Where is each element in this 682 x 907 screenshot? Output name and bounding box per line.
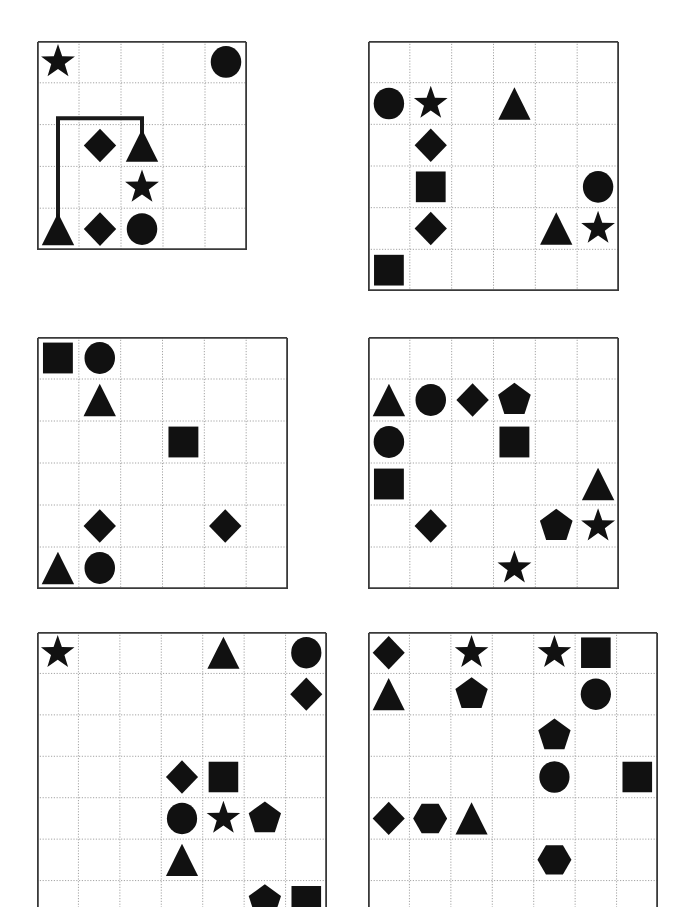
grid-cell-r0-c5 xyxy=(581,637,611,668)
square-shape xyxy=(374,469,404,500)
grid-cell-r5-c0 xyxy=(374,255,404,286)
grid-cell-r3-c6 xyxy=(622,762,652,793)
square-shape xyxy=(291,886,321,907)
square-shape xyxy=(416,171,446,202)
panel-1 xyxy=(37,41,247,250)
circle-shape xyxy=(127,213,157,245)
grid-cell-r0-c0 xyxy=(43,343,73,374)
grid-cell-r1-c1 xyxy=(415,384,446,416)
grid-cell-r4-c3 xyxy=(167,803,197,834)
circle-shape xyxy=(167,803,197,834)
grid-cell-r5-c1 xyxy=(84,552,115,584)
grid-cell-r3-c0 xyxy=(374,469,404,500)
panel-6-canvas xyxy=(368,632,658,907)
grid-cell-r1-c0 xyxy=(374,88,404,120)
panel-4 xyxy=(368,337,619,589)
panel-1-canvas xyxy=(37,41,247,250)
grid-cell-r6-c6 xyxy=(291,886,321,907)
panel-5 xyxy=(37,632,327,907)
worksheet-sheet xyxy=(0,0,682,907)
grid-cell-r0-c1 xyxy=(84,342,115,374)
grid-cell-r2-c3 xyxy=(168,427,198,458)
grid-cell-r0-c6 xyxy=(291,637,321,668)
circle-shape xyxy=(583,171,613,203)
grid-cell-r0-c4 xyxy=(211,46,241,78)
circle-shape xyxy=(539,761,569,792)
circle-shape xyxy=(84,342,115,374)
grid-cell-r3-c4 xyxy=(209,762,239,793)
grid-cell-r3-c1 xyxy=(416,171,446,202)
panel-4-canvas xyxy=(368,337,619,589)
panel-2-canvas xyxy=(368,41,619,291)
grid-cell-r1-c5 xyxy=(581,678,611,709)
square-shape xyxy=(622,762,652,793)
square-shape xyxy=(43,343,73,374)
square-shape xyxy=(209,762,239,793)
panel-2 xyxy=(368,41,619,291)
panel-6 xyxy=(368,632,658,907)
circle-shape xyxy=(291,637,321,668)
square-shape xyxy=(581,637,611,668)
grid-cell-r2-c0 xyxy=(374,426,405,458)
grid-cell-r2-c3 xyxy=(499,427,529,458)
grid-cell-r4-c2 xyxy=(127,213,157,245)
grid-cell-r3-c5 xyxy=(583,171,613,203)
grid-cell-r3-c4 xyxy=(539,761,569,792)
circle-shape xyxy=(374,426,405,458)
square-shape xyxy=(499,427,529,458)
square-shape xyxy=(168,427,198,458)
panel-3-canvas xyxy=(37,337,288,589)
circle-shape xyxy=(211,46,241,78)
circle-shape xyxy=(84,552,115,584)
square-shape xyxy=(374,255,404,286)
panel-5-canvas xyxy=(37,632,327,907)
panel-3 xyxy=(37,337,288,589)
circle-shape xyxy=(415,384,446,416)
circle-shape xyxy=(374,88,404,120)
circle-shape xyxy=(581,678,611,709)
